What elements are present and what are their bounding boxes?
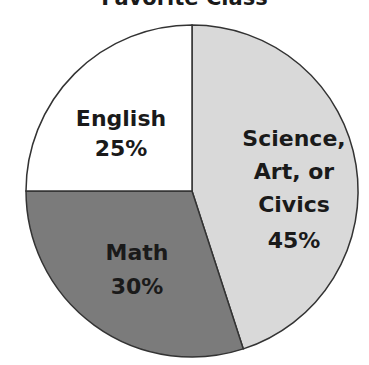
label-science: Science, (242, 126, 345, 151)
pie-chart: English 25% Science, Art, or Civics 45% … (0, 0, 369, 365)
label-math-value: 30% (111, 274, 164, 299)
label-civics: Civics (258, 192, 330, 217)
label-english: English (76, 106, 166, 131)
label-science-value: 45% (268, 228, 321, 253)
label-math: Math (106, 240, 169, 265)
label-art: Art, or (254, 159, 335, 184)
label-english-value: 25% (95, 136, 148, 161)
